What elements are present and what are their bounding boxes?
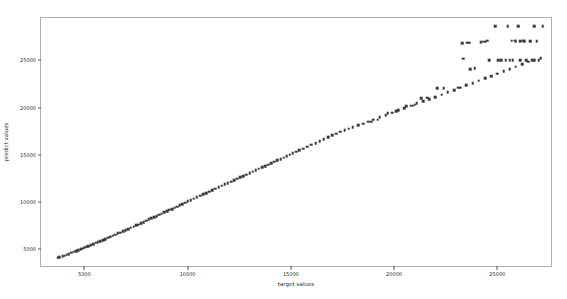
scatter-point <box>405 105 408 108</box>
scatter-point <box>486 39 489 42</box>
y-ticklabel-5000: 5000 <box>23 246 36 252</box>
scatter-point <box>327 136 330 139</box>
scatter-point <box>331 134 334 137</box>
scatter-plot-area <box>41 18 551 266</box>
scatter-point <box>58 256 61 259</box>
x-ticklabel-20000: 20000 <box>386 271 402 277</box>
scatter-point <box>436 87 439 90</box>
scatter-point <box>298 149 301 152</box>
scatter-point <box>440 94 443 97</box>
scatter-point <box>446 91 449 94</box>
scatter-point <box>442 87 445 90</box>
scatter-point <box>482 40 485 43</box>
scatter-point <box>335 132 338 135</box>
scatter-point <box>357 124 360 127</box>
scatter-point <box>426 96 429 99</box>
scatter-point <box>519 59 522 62</box>
scatter-point <box>391 111 394 114</box>
scatter-point <box>462 57 465 60</box>
scatter-point <box>422 100 425 103</box>
y-axis-label: predict values <box>0 17 12 267</box>
scatter-point <box>521 63 524 66</box>
scatter-point <box>362 122 365 125</box>
scatter-point <box>537 59 540 62</box>
scatter-point <box>420 97 423 100</box>
scatter-point <box>347 128 350 131</box>
scatter-point <box>490 75 493 78</box>
y-tick-25000 <box>38 60 42 61</box>
scatter-point <box>529 40 532 43</box>
scatter-point <box>515 65 518 68</box>
scatter-point <box>525 59 528 62</box>
x-ticklabel-15000: 15000 <box>283 271 299 277</box>
scatter-point <box>343 129 346 132</box>
scatter-point <box>484 77 487 80</box>
y-tick-15000 <box>38 154 42 155</box>
scatter-point <box>461 42 464 45</box>
y-tick-20000 <box>38 107 42 108</box>
x-tick-25000 <box>497 266 498 270</box>
scatter-point <box>514 39 517 42</box>
scatter-point <box>465 84 468 87</box>
scatter-point <box>494 25 497 28</box>
x-tick-15000 <box>290 266 291 270</box>
scatter-point <box>413 103 416 106</box>
scatter-point <box>522 39 525 42</box>
scatter-point <box>469 68 472 71</box>
scatter-point <box>310 144 313 147</box>
scatter-point <box>351 126 354 129</box>
scatter-point <box>512 59 515 62</box>
scatter-point <box>339 130 342 133</box>
x-tick-20000 <box>394 266 395 270</box>
scatter-point <box>531 59 534 62</box>
scatter-point <box>506 25 509 28</box>
scatter-point <box>533 25 536 28</box>
scatter-point <box>535 40 538 43</box>
y-ticklabel-10000: 10000 <box>20 199 36 205</box>
scatter-point <box>488 59 491 62</box>
x-ticklabel-5000: 5000 <box>78 271 91 277</box>
scatter-point <box>302 147 305 150</box>
x-ticklabel-10000: 10000 <box>180 271 196 277</box>
x-tick-5000 <box>84 266 85 270</box>
x-tick-10000 <box>187 266 188 270</box>
scatter-point <box>473 67 476 70</box>
scatter-point <box>387 112 390 115</box>
scatter-point <box>434 96 437 99</box>
scatter-point <box>504 59 507 62</box>
y-tick-5000 <box>38 249 42 250</box>
scatter-point <box>468 41 471 44</box>
scatter-point <box>457 86 460 89</box>
y-ticklabel-20000: 20000 <box>20 105 36 111</box>
plot-axes: 5000100001500020000250005000100001500020… <box>40 17 552 267</box>
matplotlib-figure: predict values 5000100001500020000250005… <box>0 0 567 299</box>
scatter-point <box>517 25 520 28</box>
x-ticklabel-25000: 25000 <box>489 271 505 277</box>
scatter-point <box>500 59 503 62</box>
scatter-point <box>314 142 317 145</box>
scatter-point <box>496 72 499 75</box>
y-ticklabel-25000: 25000 <box>20 57 36 63</box>
scatter-point <box>508 68 511 71</box>
scatter-point <box>471 82 474 85</box>
scatter-point <box>318 140 321 143</box>
scatter-point <box>477 79 480 82</box>
y-tick-10000 <box>38 201 42 202</box>
scatter-point <box>306 145 309 148</box>
y-ticklabel-15000: 15000 <box>20 152 36 158</box>
scatter-point <box>323 138 326 141</box>
x-axis-label: target values <box>40 281 552 287</box>
scatter-point <box>453 89 456 92</box>
scatter-point <box>395 110 398 113</box>
scatter-point <box>541 25 544 28</box>
y-axis-label-text: predict values <box>3 123 9 162</box>
scatter-point <box>370 120 373 123</box>
scatter-point <box>376 119 379 122</box>
scatter-point <box>502 70 505 73</box>
